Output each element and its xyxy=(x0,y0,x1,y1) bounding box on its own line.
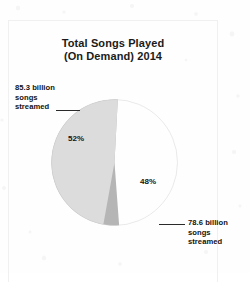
callout-left-line-3: streamed xyxy=(15,102,55,112)
chart-title-line-1: Total Songs Played xyxy=(8,37,218,50)
chart-title-line-2: (On Demand) 2014 xyxy=(8,50,218,63)
callout-left-line-2: songs xyxy=(15,93,55,103)
chart-title: Total Songs Played (On Demand) 2014 xyxy=(8,37,218,62)
callout-left-line-1: 85.3 billion xyxy=(15,83,55,93)
callout-right-line-2: songs xyxy=(188,228,228,238)
pie-percent-label-48: 48% xyxy=(140,177,156,186)
pie-svg xyxy=(51,99,178,226)
callout-right: 78.6 billion songs streamed xyxy=(188,218,228,247)
callout-right-line-1: 78.6 billion xyxy=(188,218,228,228)
callout-right-leader-line xyxy=(159,224,185,225)
callout-left-leader-line xyxy=(56,110,80,111)
callout-right-line-3: streamed xyxy=(188,237,228,247)
pie-percent-label-52: 52% xyxy=(68,134,84,143)
callout-left: 85.3 billion songs streamed xyxy=(15,83,55,112)
pie-chart xyxy=(51,99,178,226)
